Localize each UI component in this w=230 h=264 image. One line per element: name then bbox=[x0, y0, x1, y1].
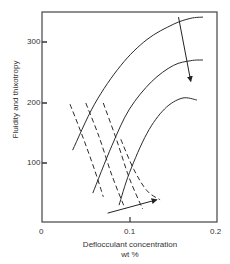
trend-arrow-right-icon bbox=[108, 200, 157, 213]
ytick-100: 100 bbox=[27, 158, 40, 167]
x-axis-label-line1: Deflocculant concentration bbox=[70, 240, 190, 250]
x-axis-label-unit: wt % bbox=[70, 250, 190, 260]
thixotropy-curve-4 bbox=[121, 139, 160, 200]
thixotropy-curve-1 bbox=[70, 104, 103, 197]
fluidity-curve-1 bbox=[73, 17, 203, 150]
annotation-layer bbox=[108, 17, 191, 213]
fluidity-curve-3 bbox=[119, 98, 197, 205]
thixotropy-curve-2 bbox=[86, 103, 125, 209]
xtick-0.2: 0.2 bbox=[210, 227, 221, 236]
y-axis-label: Fluidity and thixotropy bbox=[11, 50, 20, 150]
xtick-0: 0 bbox=[39, 227, 43, 236]
ytick-200: 200 bbox=[27, 98, 40, 107]
x-axis-label: Deflocculant concentration wt % bbox=[70, 240, 190, 260]
series-layer bbox=[70, 17, 203, 209]
ytick-300: 300 bbox=[27, 37, 40, 46]
xtick-0.1: 0.1 bbox=[124, 227, 135, 236]
plot-frame bbox=[42, 12, 217, 222]
trend-arrow-down-icon bbox=[179, 17, 191, 81]
y-ticks bbox=[42, 42, 47, 163]
